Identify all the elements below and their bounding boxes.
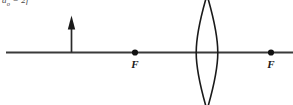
focal-point-right-label: F [267,58,274,70]
diagram-canvas [0,0,293,105]
focal-point-right-dot [268,49,274,55]
ray-diagram-figure: do = 2f F F [0,0,293,105]
focal-point-left-label: F [131,58,138,70]
object-arrow-head [68,16,75,30]
focal-point-left-dot [132,49,138,55]
